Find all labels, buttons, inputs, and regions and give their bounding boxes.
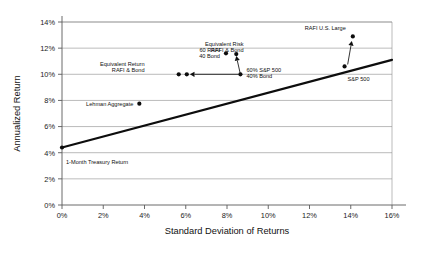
x-tick-label-4: 4% [139,211,150,220]
point-label-1: Lehman Aggregate [86,101,133,107]
equivalent-risk-arrow-head [235,56,240,61]
data-point-6 [342,64,346,68]
y-tick-label-0: 0% [44,201,55,210]
y-tick-label-2: 2% [44,175,55,184]
equivalent-return-arrow-head [190,72,195,77]
equivalent-return-line2: RAFI & Bond [112,67,145,73]
point-label-6: S&P 500 [348,76,370,82]
chart-canvas: 0%2%4%6%8%10%12%14%0%2%4%6%8%10%12%14%16… [0,0,421,256]
y-tick-label-12: 12% [40,44,55,53]
point-label-5: 40% Bond [246,73,272,79]
x-tick-label-16: 16% [385,211,400,220]
point-label-0: 1-Month Treasury Return [66,159,128,165]
equivalent-risk-arrow-shaft [237,60,240,74]
y-tick-label-8: 8% [44,96,55,105]
sp500-to-rafi-arrow-head [348,41,353,46]
x-tick-label-6: 6% [180,211,191,220]
data-point-7 [351,34,355,38]
x-tick-label-8: 8% [222,211,233,220]
y-tick-label-14: 14% [40,18,55,27]
point-label-7: RAFI U.S. Large [305,25,346,31]
y-tick-label-4: 4% [44,149,55,158]
data-point-4 [238,72,242,76]
data-point-0 [60,145,64,149]
x-tick-label-0: 0% [57,211,68,220]
x-tick-label-10: 10% [261,211,276,220]
equivalent-risk-marker [234,52,238,56]
y-tick-label-6: 6% [44,122,55,131]
x-tick-label-2: 2% [98,211,109,220]
equivalent-risk-line2: RAFI & Bond [211,47,244,53]
point-label-3: 40 Bond [199,53,220,59]
equivalent-return-marker-b [185,72,189,76]
x-tick-label-12: 12% [302,211,317,220]
x-tick-label-14: 14% [343,211,358,220]
data-point-1 [137,102,141,106]
y-tick-label-10: 10% [40,70,55,79]
equivalent-return-marker-a [177,72,181,76]
y-axis-title: Annualized Return [12,75,22,152]
risk-return-scatter-chart: 0%2%4%6%8%10%12%14%0%2%4%6%8%10%12%14%16… [0,0,421,256]
x-axis-title: Standard Deviation of Returns [165,226,290,236]
